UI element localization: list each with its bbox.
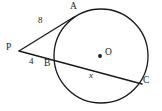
segment-length-8: 8	[38, 16, 43, 25]
tangent-segment-pa	[19, 17, 74, 51]
center-point-dot	[98, 54, 102, 58]
point-label-p: P	[6, 43, 11, 53]
segment-length-4: 4	[29, 57, 34, 66]
point-label-b: B	[44, 59, 50, 69]
secant-segment-pc	[19, 51, 142, 84]
unknown-length-x: x	[89, 71, 93, 80]
point-label-a: A	[70, 2, 77, 12]
point-label-c: C	[143, 76, 149, 86]
center-label-o: O	[105, 48, 112, 58]
geometry-diagram: A 8 P 4 B O x C	[0, 0, 162, 111]
geometry-canvas	[0, 0, 162, 111]
